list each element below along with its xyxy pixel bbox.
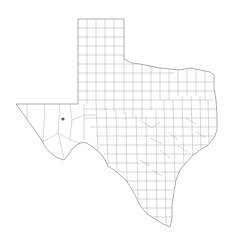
texas-county-map bbox=[0, 0, 245, 245]
location-marker-icon[interactable] bbox=[61, 117, 64, 120]
texas-outline bbox=[16, 19, 217, 227]
map-container: Texas counties bbox=[0, 0, 245, 245]
